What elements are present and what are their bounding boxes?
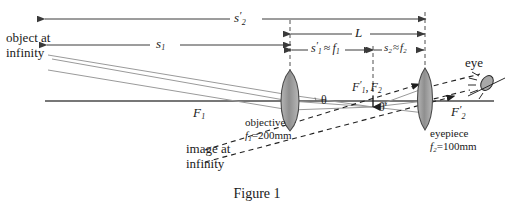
eyepiece-lens xyxy=(418,68,433,130)
object-at-infinity-label: object at infinity xyxy=(6,30,50,61)
object-at-infinity-line-1: object at xyxy=(6,30,50,45)
dimension-label-s2-prime: s′2 xyxy=(234,10,246,27)
emergent-ray-extension-upper xyxy=(425,74,480,88)
eye-label: eye xyxy=(465,56,483,70)
incoming-ray-chief xyxy=(52,59,290,101)
emergent-ray-upper xyxy=(205,84,420,150)
dimension-label-s1-prime-approx-f1: s′1≈f1 xyxy=(311,41,340,56)
image-at-infinity-label: image at infinity xyxy=(186,141,230,172)
dimension-label-s2-approx-f2: s2≈f2 xyxy=(384,42,407,54)
object-at-infinity-line-2: infinity xyxy=(6,45,50,60)
point-label-F2-prime: F′2 xyxy=(451,104,466,121)
angle-label-theta-prime: θ′ xyxy=(379,101,387,114)
eyepiece-lens-caption: eyepiece f2=100mm xyxy=(430,127,477,154)
image-at-infinity-line-1: image at xyxy=(186,141,230,156)
image-at-infinity-line-2: infinity xyxy=(186,156,230,171)
angle-label-theta: θ xyxy=(321,94,327,107)
incoming-ray-upper xyxy=(48,55,290,95)
dimension-label-s1: s1 xyxy=(156,37,165,53)
optics-figure-telescope: s′2 s1 L s′1≈f1 s2≈f2 object at infinity… xyxy=(0,0,514,212)
objective-focal-length: f1=200mm xyxy=(245,129,292,143)
point-label-F1: F1 xyxy=(193,106,205,122)
point-label-F1-prime-F2: F′1,F2 xyxy=(352,80,382,95)
eyepiece-lens-name: eyepiece xyxy=(430,127,477,140)
dimension-label-L: L xyxy=(355,26,362,40)
objective-lens-name: objective xyxy=(245,116,292,129)
figure-caption: Figure 1 xyxy=(0,186,514,202)
figure-drawing-canvas xyxy=(0,0,514,212)
intermediate-ray-lower xyxy=(290,107,373,110)
incoming-ray-lower xyxy=(48,70,290,110)
eyepiece-focal-length: f2=100mm xyxy=(430,140,477,154)
objective-lens-caption: objective f1=200mm xyxy=(245,116,292,143)
